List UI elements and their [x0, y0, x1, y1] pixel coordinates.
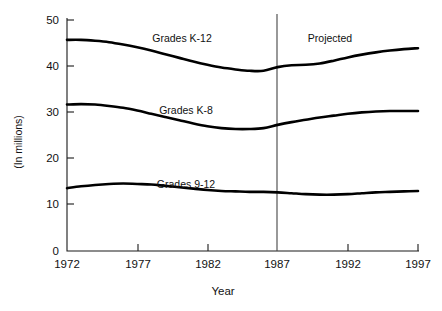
x-tick-label-1972: 1972: [54, 258, 80, 270]
x-tick-label-1997: 1997: [405, 258, 431, 270]
y-tick-label-20: 20: [46, 152, 59, 164]
x-axis-title: Year: [211, 285, 234, 297]
series-label-grades-k-8: Grades K-8: [159, 104, 213, 116]
x-tick-label-1977: 1977: [125, 258, 151, 270]
chart-container: 50 40 30 20 10 0 1972 1977 1982 1987 199…: [0, 0, 442, 311]
y-axis-title: (In millions): [12, 115, 24, 169]
y-tick-label-40: 40: [46, 60, 59, 72]
y-tick-label-30: 30: [46, 106, 59, 118]
x-tick-label-1992: 1992: [335, 258, 361, 270]
series-label-grades-k-12: Grades K-12: [152, 32, 212, 44]
y-tick-label-0: 0: [53, 245, 59, 257]
y-tick-label-50: 50: [46, 14, 59, 26]
series-label-grades-9-12: Grades 9-12: [157, 178, 216, 190]
line-chart: 50 40 30 20 10 0 1972 1977 1982 1987 199…: [0, 0, 442, 311]
y-tick-label-10: 10: [46, 198, 59, 210]
projected-annotation-label: Projected: [308, 32, 353, 44]
x-tick-label-1987: 1987: [264, 258, 290, 270]
x-tick-label-1982: 1982: [195, 258, 221, 270]
